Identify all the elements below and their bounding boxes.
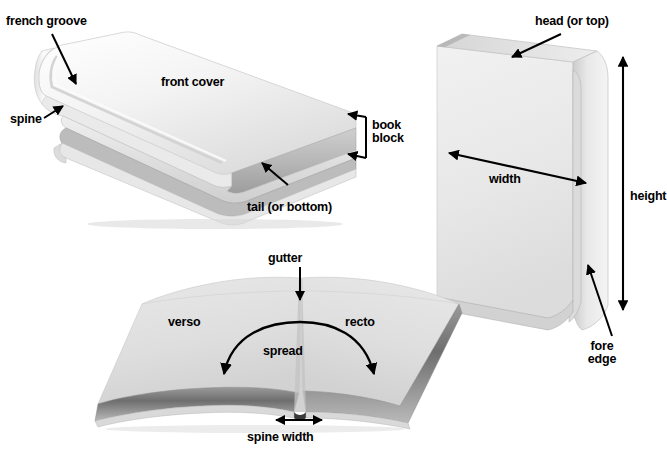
label-fore-edge-line1: fore: [577, 340, 627, 353]
label-fore-edge-line2: edge: [577, 353, 627, 366]
label-book-block-line2: block: [372, 132, 404, 145]
label-head: head (or top): [535, 15, 609, 28]
label-fore-edge: fore edge: [577, 340, 627, 366]
label-spine: spine: [10, 113, 42, 126]
label-verso: verso: [168, 316, 200, 329]
label-gutter: gutter: [268, 252, 302, 265]
book-anatomy-illustration: [0, 0, 667, 455]
label-recto: recto: [345, 316, 375, 329]
recto-page: [302, 277, 459, 406]
label-width: width: [489, 173, 521, 186]
label-spread: spread: [263, 345, 303, 358]
label-tail: tail (or bottom): [247, 201, 332, 214]
standing-book-illustration: [437, 34, 623, 336]
label-spine-width: spine width: [247, 431, 314, 444]
label-book-block-line1: book: [372, 119, 404, 132]
label-french-groove: french groove: [6, 15, 87, 28]
label-front-cover: front cover: [161, 76, 224, 89]
closed-book-ground-shadow: [87, 219, 343, 229]
diagram-canvas: french groove spine front cover book blo…: [0, 0, 667, 455]
label-book-block: book block: [372, 119, 404, 145]
label-height: height: [630, 190, 666, 203]
